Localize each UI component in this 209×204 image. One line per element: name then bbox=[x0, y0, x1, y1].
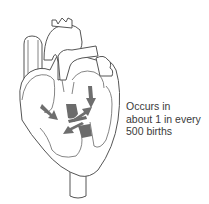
heart-diagram: Occurs in about 1 in every 500 births bbox=[0, 0, 209, 204]
aorta-branches bbox=[52, 18, 72, 28]
caption-line-1: Occurs in bbox=[126, 100, 209, 113]
caption-line-3: 500 births bbox=[126, 125, 209, 138]
occurrence-caption: Occurs in about 1 in every 500 births bbox=[126, 100, 209, 138]
caption-line-2: about 1 in every bbox=[126, 113, 209, 126]
